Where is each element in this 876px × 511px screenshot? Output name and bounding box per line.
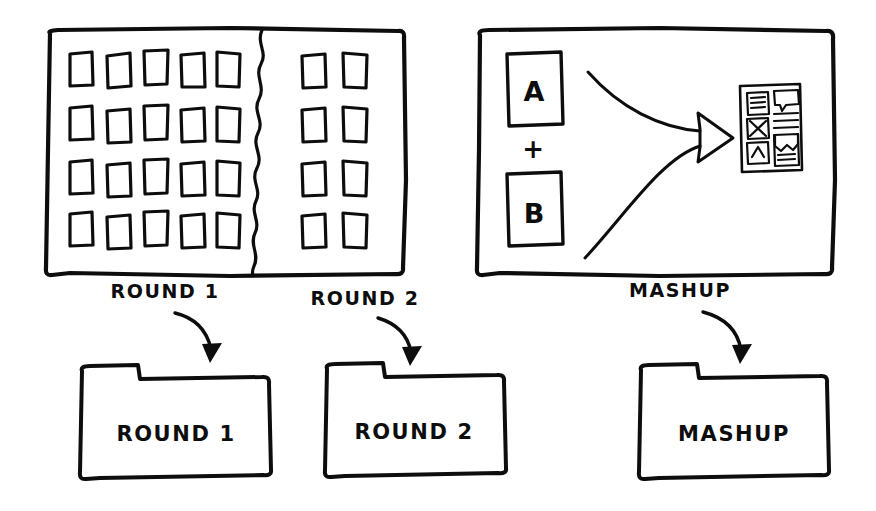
sketch-grid-panel: [46, 28, 406, 276]
arrow-curve: [175, 313, 211, 349]
arrow-mashup: [703, 312, 752, 364]
grid-cell: [217, 161, 240, 196]
chevron-up-icon: [747, 142, 769, 164]
plus-symbol: +: [522, 134, 545, 164]
speech-bubble-outline: [774, 90, 799, 111]
content-card-line: [778, 154, 795, 155]
hand-drawn-diagram: A + B: [0, 0, 876, 511]
grid-cell: [107, 109, 131, 143]
grid-cell: [302, 54, 326, 88]
content-card-line: [778, 159, 795, 160]
folder-round-2[interactable]: ROUND 2: [325, 363, 506, 477]
grid-cell: [144, 211, 168, 246]
content-card-block: [774, 134, 799, 166]
folder-round-1[interactable]: ROUND 1: [80, 365, 271, 479]
content-card-outline: [774, 134, 799, 166]
diagram-canvas: A + B: [0, 0, 876, 511]
folder-mashup[interactable]: MASHUP: [639, 364, 829, 479]
text-lines-block: [774, 113, 798, 128]
grid-cell: [217, 52, 240, 87]
folder-label: ROUND 1: [116, 422, 235, 446]
card-a-letter: A: [524, 76, 545, 107]
arrow-curve-upper: [588, 72, 700, 131]
card-b: B: [507, 172, 563, 246]
grid-cell: [107, 215, 131, 249]
arrow-curve: [703, 312, 741, 350]
grid-cell: [181, 53, 205, 87]
grid-cell: [144, 105, 168, 140]
label-mashup: MASHUP: [629, 279, 731, 301]
arrow-head: [732, 344, 752, 364]
grid-cell: [343, 107, 367, 142]
grid-cell: [144, 50, 168, 85]
list-icon-line: [751, 107, 765, 108]
arrow-head: [402, 346, 422, 366]
grid-cell: [343, 213, 367, 248]
grid-cell: [107, 53, 131, 88]
grid-cell: [181, 162, 205, 196]
label-round-2: ROUND 2: [311, 287, 420, 309]
arrow-head: [202, 343, 222, 363]
mashup-panel: A + B: [477, 28, 835, 276]
grid-cell: [343, 161, 367, 196]
merge-arrow-icon: [585, 72, 733, 258]
arrow-round-1: [175, 313, 222, 363]
list-icon-line: [751, 102, 765, 103]
plus-icon: +: [522, 134, 545, 164]
wavy-divider: [252, 30, 263, 275]
grid-cell: [144, 159, 168, 194]
grid-cell: [302, 108, 326, 142]
text-line: [774, 120, 798, 121]
grid-cell: [181, 108, 205, 142]
card-b-letter: B: [524, 198, 545, 229]
grid-cell: [302, 214, 326, 248]
panel-outline: [46, 28, 406, 276]
folder-label: ROUND 2: [354, 420, 473, 444]
list-lines-icon: [747, 92, 769, 115]
list-icon-line: [751, 97, 765, 98]
round-1-grid: [70, 50, 240, 249]
grid-cell: [70, 52, 93, 86]
grid-cell: [70, 212, 93, 246]
arrow-head: [698, 113, 733, 162]
text-line: [774, 127, 798, 128]
speech-bubble-block: [774, 90, 799, 111]
chevron-icon-stroke: [752, 147, 764, 157]
grid-cell: [107, 163, 131, 197]
arrow-curve-lower: [585, 146, 700, 258]
chevron-icon-box: [747, 142, 769, 164]
card-a: A: [507, 52, 563, 126]
grid-cell: [70, 106, 93, 140]
grid-cell: [343, 53, 367, 88]
grid-cell: [302, 162, 326, 196]
text-line: [774, 113, 798, 114]
grid-cell: [217, 107, 240, 142]
folder-label: MASHUP: [678, 422, 790, 446]
grid-cell: [217, 213, 240, 248]
arrow-round-2: [378, 318, 422, 366]
grid-cell: [181, 214, 205, 248]
grid-cell: [70, 160, 93, 194]
wireframe-mockup: [740, 84, 802, 172]
content-card-image: [775, 134, 798, 151]
round-2-grid: [302, 53, 367, 248]
x-close-icon: [747, 118, 769, 139]
label-round-1: ROUND 1: [111, 280, 220, 302]
